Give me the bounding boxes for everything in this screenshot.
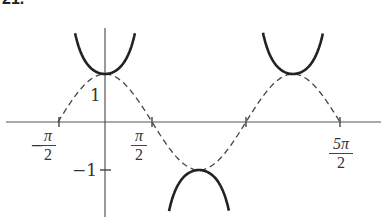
y-tick-label-neg1: −1 [72, 162, 97, 179]
frac-num: 5π [329, 136, 353, 154]
y-tick-label-1: 1 [90, 87, 101, 104]
frac-num: π [40, 128, 56, 146]
frac-den: 2 [40, 146, 56, 163]
sec-branch-3 [263, 33, 323, 74]
x-tick-label-5pi-2: 5π 2 [329, 136, 353, 171]
axes [6, 28, 381, 217]
frac-den: 2 [131, 146, 147, 163]
x-tick-label-pi-2: π 2 [131, 128, 147, 163]
sec-cos-graph [0, 0, 381, 217]
x-tick-label-neg-pi-2: π 2 [40, 128, 56, 163]
frac-den: 2 [329, 154, 353, 171]
sec-branch-2 [169, 170, 229, 211]
frac-num: π [131, 128, 147, 146]
